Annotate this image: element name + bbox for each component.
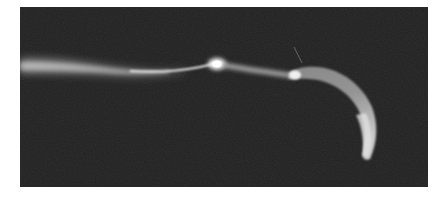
specimen-illustration	[20, 7, 428, 187]
midpiece-node-core	[212, 61, 222, 68]
film-grain	[20, 7, 428, 187]
micrograph-photo	[20, 7, 428, 187]
head-node	[289, 71, 301, 80]
